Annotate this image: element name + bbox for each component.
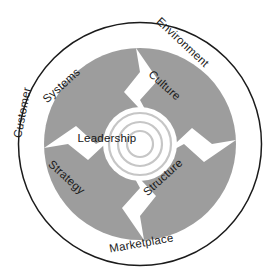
leadership-model-diagram — [0, 0, 280, 280]
diagram-canvas: Leadership Systems Culture Structure Str… — [0, 0, 280, 280]
gray-element-ring — [0, 0, 280, 280]
